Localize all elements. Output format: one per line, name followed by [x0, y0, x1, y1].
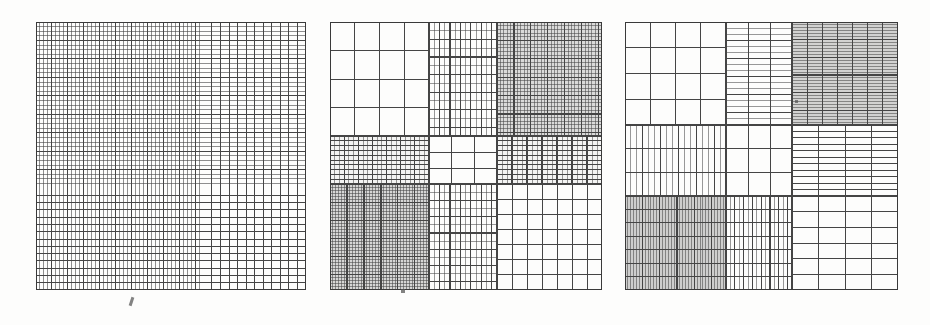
scan-speck-3: [795, 100, 798, 103]
panel-frame: [625, 22, 898, 290]
scan-speck-1: [129, 297, 135, 306]
mesh-panel-3: [625, 22, 898, 290]
mesh-panel-1: [36, 22, 306, 290]
figure-root: [0, 0, 930, 325]
panel-frame: [36, 22, 306, 290]
scan-speck-2: [401, 289, 405, 293]
panel-frame: [330, 22, 602, 290]
mesh-panel-2: [330, 22, 602, 290]
